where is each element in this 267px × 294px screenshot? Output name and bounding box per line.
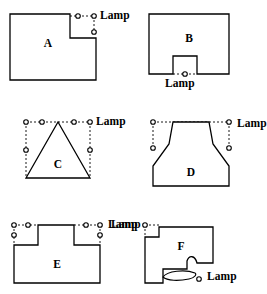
lamp-marker [72,120,77,125]
lamp-marker [88,120,93,125]
lamp-marker [143,223,148,228]
shape-label-e: E [53,258,61,270]
figure-panel-a: A Lamp [0,0,133,98]
lamp-markers-b [183,72,188,77]
lamp-marker [24,120,29,125]
figure-c-drawing: C [0,98,133,203]
lamp-markers-a [76,14,97,35]
figure-e-drawing: E [0,203,133,294]
figure-f-drawing: F [133,203,267,294]
lamp-marker [98,223,103,228]
figure-sheet: A Lamp B Lamp [0,0,267,294]
figure-panel-d: D Lamp [133,98,267,203]
lamp-marker [92,30,97,35]
lamp-label-d: Lamp [237,118,267,130]
figure-panel-f: F Lamp Lamp [133,203,267,294]
polygon-outline-a [10,14,96,80]
lamp-label-c: Lamp [96,116,126,128]
figure-panel-b: B Lamp [133,0,267,98]
shape-label-f: F [177,240,184,252]
shape-label-a: A [44,37,53,49]
figure-b-drawing: B [133,0,267,98]
lamp-label-b: Lamp [165,78,195,90]
lamp-marker [88,148,93,153]
lamp-marker [183,72,188,77]
figure-panel-c: C Lamp [0,98,133,203]
lamp-marker [227,146,232,151]
lamp-label-f-top: Lamp [111,219,141,231]
lamp-marker [98,233,103,238]
lamp-marker [151,120,156,125]
lamp-marker [227,120,232,125]
lamp-marker [26,223,31,228]
shape-label-d: D [187,166,195,178]
lamp-marker [76,14,81,19]
curved-region-f [163,271,196,280]
shape-label-c: C [54,158,62,170]
lamp-marker [24,148,29,153]
shape-label-b: B [185,32,193,44]
figure-d-drawing: D [133,98,267,203]
lamp-marker [151,146,156,151]
lamp-marker [40,120,45,125]
lamp-marker [84,223,89,228]
lamp-label-a: Lamp [100,10,130,22]
lamp-marker [12,233,17,238]
lamp-label-f-bottom: Lamp [207,271,237,283]
lamp-marker [92,14,97,19]
lamp-marker [12,223,17,228]
polygon-outline-b [149,14,229,74]
lamp-marker [197,277,202,282]
polygon-outline-e [14,225,100,283]
figure-panel-e: E Lamp [0,203,133,294]
